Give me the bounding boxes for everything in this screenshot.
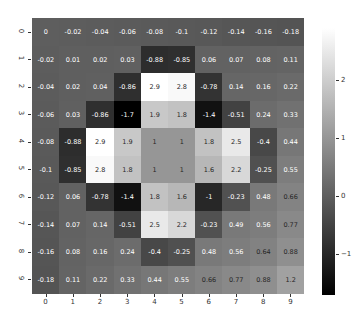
y-tick-mark <box>28 169 31 170</box>
heatmap-cell: -0.4 <box>250 128 278 156</box>
heatmap-cell: 0.66 <box>195 266 223 294</box>
heatmap-cell: -0.86 <box>86 101 114 129</box>
colorbar-tick-label: −1 <box>341 250 351 258</box>
heatmap-cell: -0.51 <box>114 211 142 239</box>
heatmap-cell: 1.9 <box>141 101 169 129</box>
heatmap-cell: -0.14 <box>32 211 60 239</box>
heatmap-cell: -0.08 <box>141 18 169 46</box>
heatmap-cell: 0.07 <box>59 211 87 239</box>
y-tick-mark <box>28 142 31 143</box>
heatmap-cell: 0.08 <box>59 238 87 266</box>
heatmap-cell: 0.16 <box>86 238 114 266</box>
heatmap-cell: 0.11 <box>59 266 87 294</box>
y-tick-label: 3 <box>17 108 25 118</box>
heatmap-cell: -0.16 <box>32 238 60 266</box>
heatmap-cell: 0.08 <box>250 46 278 74</box>
heatmap-cell: -0.06 <box>114 18 142 46</box>
heatmap-cell: -0.25 <box>168 238 196 266</box>
heatmap-cell: 2.5 <box>222 128 250 156</box>
heatmap-cell: 0.77 <box>277 211 305 239</box>
heatmap-cell: 2.9 <box>141 73 169 101</box>
x-tick-mark <box>127 294 128 297</box>
x-tick-mark <box>100 294 101 297</box>
heatmap-cell: 0.56 <box>222 238 250 266</box>
heatmap-cell: 0.77 <box>222 266 250 294</box>
heatmap-cell: -0.4 <box>141 238 169 266</box>
heatmap-cell: -0.23 <box>222 183 250 211</box>
heatmap-cell: 0.55 <box>168 266 196 294</box>
y-tick-label: 7 <box>17 218 25 228</box>
x-tick-label: 7 <box>231 298 241 306</box>
y-tick-mark <box>28 59 31 60</box>
heatmap-cell: 0.14 <box>86 211 114 239</box>
heatmap-cell: 0.48 <box>250 183 278 211</box>
y-tick-label: 4 <box>17 136 25 146</box>
heatmap-cell: -0.85 <box>168 46 196 74</box>
heatmap-cell: 2.2 <box>222 156 250 184</box>
heatmap-cell: -1.7 <box>114 101 142 129</box>
colorbar-tick-mark <box>336 80 339 81</box>
heatmap-cell: 0.24 <box>114 238 142 266</box>
heatmap-cell: 0.22 <box>277 73 305 101</box>
heatmap-cell: -0.04 <box>32 73 60 101</box>
colorbar-tick-mark <box>336 138 339 139</box>
heatmap-cell: 0.48 <box>195 238 223 266</box>
heatmap-grid: 0-0.02-0.04-0.06-0.08-0.1-0.12-0.14-0.16… <box>32 18 304 293</box>
heatmap-cell: -0.02 <box>59 18 87 46</box>
x-tick-label: 9 <box>285 298 295 306</box>
y-tick-label: 2 <box>17 81 25 91</box>
x-tick-mark <box>154 294 155 297</box>
heatmap-cell: 0.66 <box>277 183 305 211</box>
heatmap-cell: -0.06 <box>32 101 60 129</box>
heatmap-cell: 0.22 <box>86 266 114 294</box>
heatmap-cell: 0.33 <box>114 266 142 294</box>
heatmap-cell: 1.2 <box>277 266 305 294</box>
heatmap-cell: 1 <box>168 128 196 156</box>
heatmap-cell: -0.02 <box>32 46 60 74</box>
heatmap-cell: 2.8 <box>86 156 114 184</box>
y-tick-label: 9 <box>17 273 25 283</box>
heatmap-cell: -0.88 <box>59 128 87 156</box>
heatmap-cell: 1 <box>168 156 196 184</box>
y-tick-mark <box>28 279 31 280</box>
heatmap-cell: -0.18 <box>277 18 305 46</box>
heatmap-cell: -0.78 <box>86 183 114 211</box>
heatmap-cell: 0.02 <box>86 46 114 74</box>
heatmap-cell: -0.25 <box>250 156 278 184</box>
y-tick-label: 1 <box>17 53 25 63</box>
heatmap-cell: 0.03 <box>114 46 142 74</box>
colorbar-tick-label: 0 <box>341 192 345 200</box>
heatmap-cell: 0.02 <box>59 73 87 101</box>
y-tick-label: 0 <box>17 26 25 36</box>
y-tick-mark <box>28 252 31 253</box>
heatmap-cell: -0.78 <box>195 73 223 101</box>
heatmap-cell: 2.9 <box>86 128 114 156</box>
heatmap-cell: -0.1 <box>168 18 196 46</box>
heatmap-cell: 1.8 <box>168 101 196 129</box>
heatmap-cell: -0.18 <box>32 266 60 294</box>
heatmap-cell: -0.88 <box>141 46 169 74</box>
heatmap-cell: 0.03 <box>59 101 87 129</box>
heatmap-cell: 0.33 <box>277 101 305 129</box>
y-tick-mark <box>28 87 31 88</box>
heatmap-cell: 0.16 <box>250 73 278 101</box>
x-tick-mark <box>290 294 291 297</box>
heatmap-cell: -1 <box>195 183 223 211</box>
heatmap-cell: 0.55 <box>277 156 305 184</box>
heatmap-cell: -0.12 <box>32 183 60 211</box>
heatmap-cell: -0.85 <box>59 156 87 184</box>
heatmap-cell: -0.23 <box>195 211 223 239</box>
heatmap-cell: 0.06 <box>59 183 87 211</box>
heatmap-cell: -1.4 <box>114 183 142 211</box>
x-tick-label: 8 <box>258 298 268 306</box>
heatmap-cell: -0.04 <box>86 18 114 46</box>
heatmap-cell: 0.44 <box>277 128 305 156</box>
x-tick-label: 0 <box>41 298 51 306</box>
heatmap-cell: 0 <box>32 18 60 46</box>
colorbar-tick-label: 1 <box>341 134 345 142</box>
heatmap-cell: -0.12 <box>195 18 223 46</box>
y-tick-mark <box>28 32 31 33</box>
heatmap-cell: -0.08 <box>32 128 60 156</box>
heatmap-cell: 1.6 <box>195 156 223 184</box>
heatmap-cell: -0.16 <box>250 18 278 46</box>
